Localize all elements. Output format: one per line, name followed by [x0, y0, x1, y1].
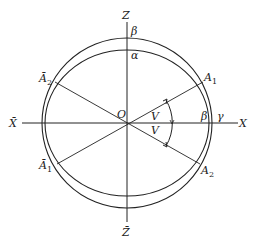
svg-text:1: 1 — [47, 165, 52, 174]
svg-text:A: A — [200, 164, 209, 177]
point-a1-bar-label: Ā 1 — [38, 159, 52, 174]
svg-text:A: A — [203, 71, 212, 84]
origin-label: O — [117, 108, 126, 121]
svg-text:2: 2 — [209, 170, 214, 179]
svg-text:Ā: Ā — [38, 72, 47, 85]
z-pos-label: Z — [121, 9, 130, 22]
gamma-right-label: γ — [217, 110, 224, 123]
point-a2-label: A 2 — [200, 164, 214, 179]
svg-text:1: 1 — [212, 77, 217, 86]
point-a1-label: A 1 — [203, 71, 217, 86]
optic-axial-diagram: Z Z̄ X X̄ O β α β γ V V A 1 A 2 Ā 2 Ā 1 — [0, 0, 255, 245]
angle-v-upper-label: V — [151, 110, 160, 123]
beta-right-label: β — [200, 110, 207, 123]
beta-top-label: β — [130, 25, 137, 38]
x-pos-label: X — [238, 117, 248, 130]
point-a2-bar-label: Ā 2 — [38, 72, 52, 87]
z-neg-label: Z̄ — [121, 226, 130, 239]
svg-text:Ā: Ā — [38, 159, 47, 172]
alpha-top-label: α — [131, 49, 139, 62]
svg-text:2: 2 — [47, 78, 52, 87]
x-neg-label: X̄ — [8, 117, 18, 130]
angle-v-lower-label: V — [151, 124, 160, 137]
